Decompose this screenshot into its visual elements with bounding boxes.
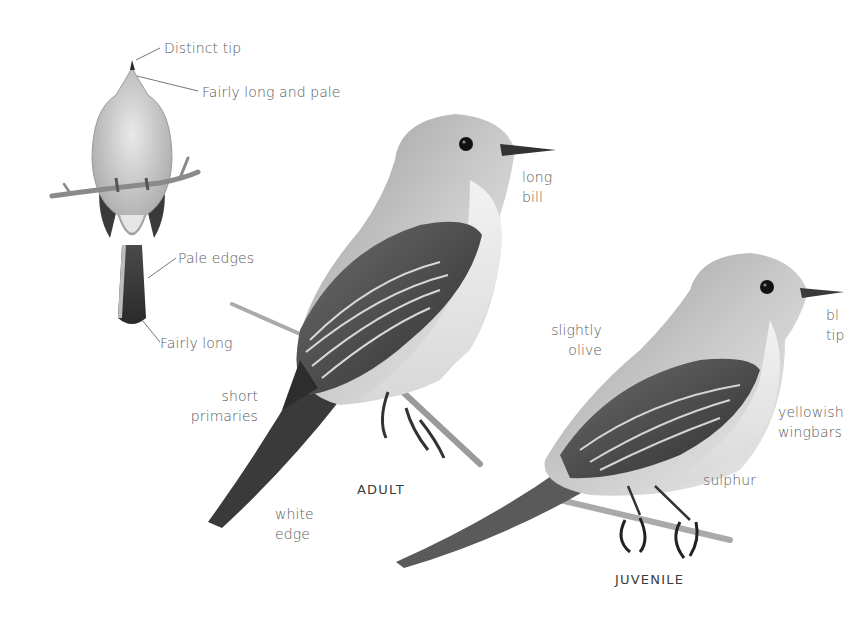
caption-juvenile: JUVENILE bbox=[615, 572, 684, 587]
label-pale-edges: Pale edges bbox=[178, 248, 254, 268]
label-white-edge: white edge bbox=[275, 504, 314, 544]
label-fairly-long: Fairly long bbox=[160, 333, 232, 353]
label-yellowish-wingbars-cropped: yellowish wingbars bbox=[778, 402, 844, 442]
illustration-plate: Distinct tip Fairly long and pale Pale e… bbox=[0, 0, 844, 625]
label-long-bill: long bill bbox=[522, 167, 552, 207]
bird-illustrations bbox=[0, 0, 844, 625]
label-bill-tip-cropped: bl tip bbox=[826, 305, 844, 345]
label-distinct-tip: Distinct tip bbox=[164, 38, 241, 58]
caption-adult: ADULT bbox=[357, 482, 405, 497]
label-short-primaries: short primaries bbox=[186, 386, 258, 426]
adult-bird bbox=[208, 114, 556, 528]
label-sulphur: sulphur bbox=[703, 470, 756, 490]
label-slightly-olive: slightly olive bbox=[540, 320, 602, 360]
back-view-bird bbox=[52, 48, 198, 342]
label-fairly-long-and-pale: Fairly long and pale bbox=[202, 82, 341, 102]
